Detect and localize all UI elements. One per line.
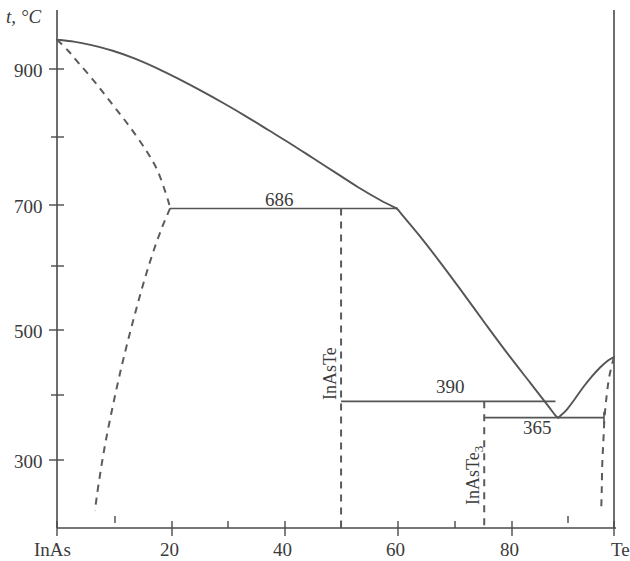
compound-label-InAsTe: InAsTe bbox=[320, 347, 340, 400]
isotherm-365-label: 365 bbox=[523, 417, 552, 438]
isotherm-686-label: 686 bbox=[265, 189, 294, 210]
y-tick-label-300: 300 bbox=[14, 451, 43, 472]
x-tick-label-Te: Te bbox=[611, 539, 630, 560]
compound-label-InAsTe-group: InAsTe bbox=[320, 347, 340, 400]
compound-label-InAsTe3-base: InAsTe bbox=[463, 452, 483, 505]
y-tick-label-500: 500 bbox=[14, 321, 43, 342]
y-axis-title: t, °C bbox=[6, 6, 41, 27]
solidus-curve-InAs bbox=[57, 40, 170, 207]
x-tick-label-80: 80 bbox=[500, 539, 519, 560]
x-ticks-group bbox=[57, 516, 614, 536]
y-tick-label-700: 700 bbox=[14, 196, 43, 217]
solvus-curve-InAs bbox=[95, 208, 170, 510]
phase-diagram-svg: t, °C 900 700 500 300 InAs 20 40 60 80 T… bbox=[0, 0, 630, 561]
compound-label-InAsTe3-group: InAsTe3 bbox=[463, 446, 486, 505]
x-tick-label-60: 60 bbox=[386, 539, 405, 560]
compound-label-InAsTe3: InAsTe3 bbox=[463, 446, 486, 505]
compound-label-InAsTe3-subscript: 3 bbox=[471, 446, 486, 453]
isotherm-390-label: 390 bbox=[436, 376, 465, 397]
liquidus-curve-main bbox=[57, 40, 397, 209]
liquidus-curve-InAsTe-branch bbox=[397, 208, 559, 417]
solvus-curve-Te bbox=[601, 357, 614, 511]
x-tick-label-20: 20 bbox=[160, 539, 179, 560]
phase-diagram-figure: t, °C 900 700 500 300 InAs 20 40 60 80 T… bbox=[0, 0, 630, 561]
x-tick-label-InAs: InAs bbox=[34, 539, 71, 560]
axes-group bbox=[57, 10, 616, 528]
y-tick-label-900: 900 bbox=[14, 60, 43, 81]
x-tick-label-40: 40 bbox=[273, 539, 292, 560]
